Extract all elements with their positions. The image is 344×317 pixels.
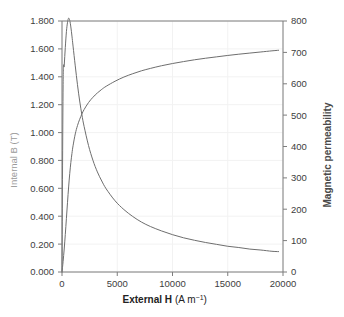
ytick-label-left: 0.000 xyxy=(30,266,54,277)
chart-svg: 0.000 0.200 0.400 0.600 0.800 1.000 1.20… xyxy=(0,0,344,317)
ytick-label-left: 1.800 xyxy=(30,15,54,26)
ytick-label-right: 300 xyxy=(291,172,307,183)
ytick-label-right: 0 xyxy=(291,266,296,277)
xtick-label: 10000 xyxy=(159,278,185,289)
ytick-label-right: 400 xyxy=(291,141,307,152)
x-axis-units-open: (A m xyxy=(175,294,196,305)
xtick-label: 0 xyxy=(59,278,64,289)
y-axis-title-left: Internal B (T) xyxy=(8,132,19,187)
ytick-label-left: 1.200 xyxy=(30,99,54,110)
ytick-label-right: 500 xyxy=(291,110,307,121)
xtick-label: 5000 xyxy=(107,278,128,289)
ytick-label-right: 100 xyxy=(291,235,307,246)
x-axis-title: External H (A m−1) xyxy=(123,294,207,306)
x-axis-units-close: ) xyxy=(204,294,207,305)
ytick-label-left: 1.400 xyxy=(30,71,54,82)
ytick-label-right: 800 xyxy=(291,15,307,26)
right-axis-tick-labels: 0 100 200 300 400 500 600 700 800 xyxy=(291,15,307,277)
xtick-label: 15000 xyxy=(215,278,241,289)
y-axis-title-right: Magnetic permeability xyxy=(322,102,333,207)
ytick-label-left: 0.200 xyxy=(30,239,54,250)
x-axis-units-exponent: −1 xyxy=(196,294,204,301)
ytick-label-left: 1.000 xyxy=(30,127,54,138)
ytick-label-left: 0.400 xyxy=(30,211,54,222)
chart-figure: 0.000 0.200 0.400 0.600 0.800 1.000 1.20… xyxy=(0,0,344,317)
xtick-label: 20000 xyxy=(270,278,296,289)
ytick-label-left: 0.800 xyxy=(30,155,54,166)
x-axis-title-main: External H xyxy=(123,294,172,305)
ytick-label-right: 600 xyxy=(291,78,307,89)
ytick-label-left: 0.600 xyxy=(30,183,54,194)
ytick-label-left: 1.600 xyxy=(30,43,54,54)
ytick-label-right: 200 xyxy=(291,204,307,215)
ytick-label-right: 700 xyxy=(291,47,307,58)
